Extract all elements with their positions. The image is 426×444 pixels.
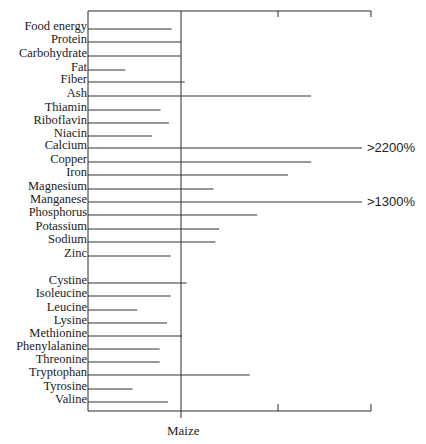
- manganese-overflow-label: >1300%: [367, 194, 415, 209]
- x-axis-reference-label: Maize: [167, 423, 199, 439]
- category-label: Valine: [55, 393, 87, 406]
- category-label: Protein: [51, 33, 87, 46]
- bars: [88, 29, 362, 402]
- category-label: Calcium: [45, 139, 87, 152]
- category-label: Zinc: [64, 247, 87, 260]
- category-label: Tryptophan: [29, 366, 87, 379]
- category-label: Ash: [67, 87, 87, 100]
- calcium-overflow-label: >2200%: [367, 140, 415, 155]
- category-label: Isoleucine: [36, 287, 87, 300]
- nutrient-comparison-chart: Food energyProteinCarbohydrateFatFiberAs…: [0, 0, 426, 444]
- category-label: Sodium: [48, 233, 87, 246]
- category-label: Iron: [66, 166, 87, 179]
- category-label: Fiber: [61, 73, 87, 86]
- category-label: Carbohydrate: [19, 47, 87, 60]
- category-label: Phosphorus: [29, 206, 87, 219]
